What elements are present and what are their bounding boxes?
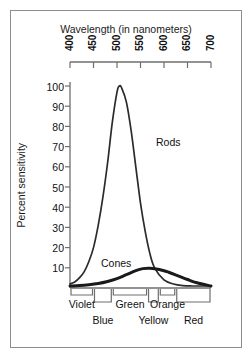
band-bracket-blue	[95, 289, 112, 302]
band-label-blue: Blue	[92, 314, 113, 326]
series-label-rods: Rods	[156, 137, 181, 148]
band-label-green: Green	[115, 298, 144, 310]
curve-cones	[70, 268, 211, 286]
band-bracket-green	[113, 289, 146, 295]
band-bracket-violet	[71, 289, 93, 295]
band-label-red: Red	[184, 314, 203, 326]
figure-root: Wavelength (in nanometers) 4004505005506…	[0, 0, 252, 362]
band-label-orange: Orange	[150, 298, 185, 310]
band-label-yellow: Yellow	[138, 314, 168, 326]
series-label-cones: Cones	[101, 258, 131, 269]
curve-rods	[70, 86, 211, 286]
band-bracket-orange	[160, 289, 174, 295]
band-label-violet: Violet	[69, 298, 95, 310]
